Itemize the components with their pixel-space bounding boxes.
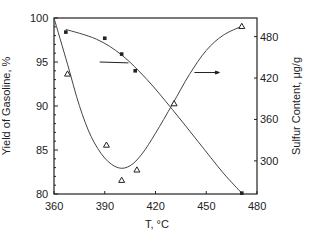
- sulfur-triangle-marker: [103, 142, 109, 147]
- y-axis-left-title: Yield of Gasoline, %: [0, 57, 12, 156]
- axis-arrows: [100, 62, 220, 74]
- y-left-tick-label: 100: [30, 12, 48, 24]
- x-tick-label: 450: [197, 200, 215, 212]
- yield-square-marker: [64, 30, 68, 34]
- plot-frame: [54, 18, 257, 194]
- x-tick-label: 480: [248, 200, 266, 212]
- x-tick-label: 420: [147, 200, 165, 212]
- y-left-tick-label: 90: [36, 100, 48, 112]
- arrow-left-icon: [100, 62, 129, 63]
- y-axis-right-title: Sulfur Content, μg/g: [290, 57, 302, 155]
- sulfur-triangle-marker: [171, 101, 177, 106]
- yield-square-marker: [240, 191, 244, 195]
- y-left-tick-label: 85: [36, 144, 48, 156]
- y-right-tick-label: 480: [260, 31, 278, 43]
- data-markers: [64, 23, 245, 195]
- x-tick-label: 360: [45, 200, 63, 212]
- sulfur-fit-curve: [54, 18, 242, 168]
- yield-square-marker: [133, 69, 137, 73]
- sulfur-triangle-marker: [239, 23, 245, 28]
- yield-square-marker: [103, 36, 107, 40]
- sulfur-triangle-marker: [134, 167, 140, 172]
- yield-square-marker: [120, 52, 124, 56]
- y-left-tick-label: 95: [36, 56, 48, 68]
- sulfur-triangle-marker: [119, 177, 125, 182]
- y-right-tick-label: 420: [260, 72, 278, 84]
- y-right-tick-label: 300: [260, 155, 278, 167]
- y-right-tick-label: 360: [260, 113, 278, 125]
- x-axis-title: T, °C: [145, 218, 169, 230]
- fit-curves: [54, 18, 242, 193]
- axis-ticks: [54, 18, 257, 194]
- yield-fit-curve: [66, 29, 242, 193]
- x-tick-label: 390: [96, 200, 114, 212]
- y-left-tick-label: 80: [36, 188, 48, 200]
